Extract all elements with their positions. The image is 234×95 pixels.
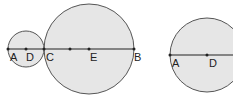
geometry-diagram: A D C E B A D bbox=[0, 0, 233, 95]
label-d: D bbox=[26, 51, 34, 63]
figure-tangent-circles: A D C E B bbox=[7, 4, 142, 94]
figure-single-circle: A D bbox=[169, 18, 234, 92]
label-d: D bbox=[209, 57, 217, 69]
label-a: A bbox=[172, 57, 180, 69]
label-b: B bbox=[134, 51, 141, 63]
label-a: A bbox=[10, 51, 18, 63]
label-e: E bbox=[90, 51, 97, 63]
point-unlabeled bbox=[69, 48, 72, 51]
label-c: C bbox=[46, 51, 54, 63]
